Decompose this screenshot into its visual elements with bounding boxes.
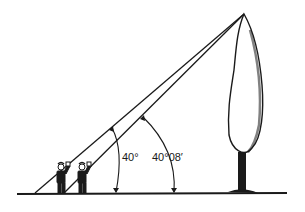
angle-arc-near [112,128,119,192]
observer-far-icon [78,162,91,193]
arrowhead-icon [171,188,177,193]
diagram-canvas [0,0,305,212]
arrowhead-icon [113,188,119,193]
angle-label-near: 40° [122,151,139,163]
angle-label-far: 40°08′ [152,151,183,163]
tree-icon [228,14,263,193]
